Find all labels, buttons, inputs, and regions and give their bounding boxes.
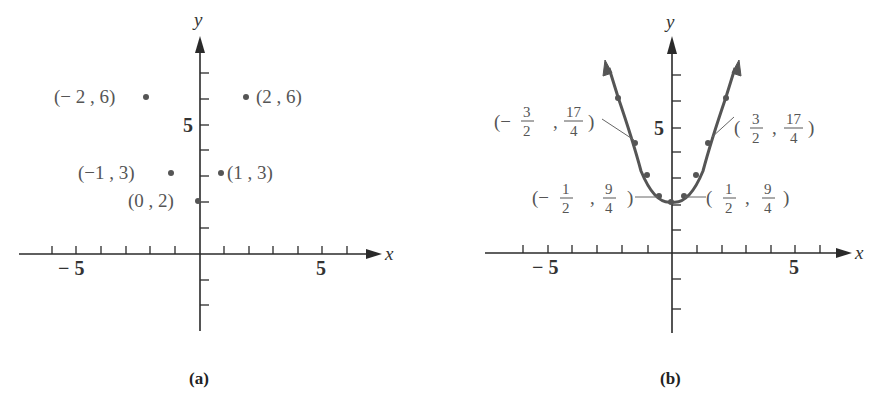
label-neg-three-halves: (− 3 2 , 17 4 ) <box>494 104 594 139</box>
x-axis-label: x <box>854 242 864 263</box>
svg-text:17: 17 <box>566 104 582 120</box>
x-axis-arrow-icon <box>366 249 382 259</box>
point-label: (1 , 3) <box>227 162 273 184</box>
svg-text:,: , <box>590 187 595 208</box>
x-tick-label-5: 5 <box>789 256 799 278</box>
svg-text:(: ( <box>734 117 740 139</box>
svg-text:(: ( <box>706 187 712 209</box>
y-tick-label-5: 5 <box>183 114 193 136</box>
svg-text:): ) <box>627 187 633 209</box>
svg-text:4: 4 <box>790 130 798 146</box>
svg-text:(−: (− <box>532 187 549 209</box>
y-ticks <box>200 73 209 305</box>
svg-text:4: 4 <box>764 200 772 216</box>
x-axis-label: x <box>384 243 394 264</box>
svg-text:,: , <box>745 187 750 208</box>
panel-a: x y <box>19 9 394 388</box>
point-2-6 <box>243 94 249 100</box>
svg-text:9: 9 <box>605 181 613 197</box>
svg-text:(−: (− <box>494 111 511 133</box>
x-tick-label-neg5: − 5 <box>532 256 558 278</box>
svg-text:,: , <box>772 117 777 138</box>
point-1-3 <box>218 170 224 176</box>
svg-text:1: 1 <box>725 181 733 197</box>
point-label: (− 2 , 6) <box>54 86 115 108</box>
svg-text:2: 2 <box>562 200 570 216</box>
figure: x y <box>0 0 881 410</box>
y-axis-label: y <box>664 11 675 32</box>
svg-text:): ) <box>783 187 789 209</box>
svg-text:4: 4 <box>570 123 578 139</box>
caption-a: (a) <box>189 369 209 388</box>
point-neg1-3 <box>168 170 174 176</box>
svg-text:3: 3 <box>523 104 531 120</box>
y-axis-label: y <box>192 9 203 30</box>
y-axis-arrow-icon <box>195 36 205 53</box>
y-tick-label-5: 5 <box>654 117 664 139</box>
svg-text:,: , <box>553 111 558 132</box>
x-tick-label-neg5: − 5 <box>58 257 84 279</box>
svg-text:3: 3 <box>752 111 760 127</box>
label-pos-half: ( 1 2 , 9 4 ) <box>706 181 789 216</box>
curve-arrow-right-icon <box>732 60 741 76</box>
svg-text:2: 2 <box>752 130 760 146</box>
svg-text:): ) <box>808 117 814 139</box>
y-axis-arrow-icon <box>667 36 677 54</box>
data-points <box>143 94 249 204</box>
panel-b: x y − 5 5 <box>485 11 864 388</box>
svg-text:9: 9 <box>764 181 772 197</box>
point-neg2-6 <box>143 94 149 100</box>
svg-text:): ) <box>588 111 594 133</box>
x-tick-label-5: 5 <box>316 257 326 279</box>
y-ticks <box>672 75 681 309</box>
svg-text:2: 2 <box>523 123 531 139</box>
point-label: (2 , 6) <box>256 86 302 108</box>
svg-text:17: 17 <box>786 111 802 127</box>
label-neg-half: (− 1 2 , 9 4 ) <box>532 181 633 216</box>
curve-arrow-left-icon <box>603 60 612 76</box>
svg-text:2: 2 <box>725 200 733 216</box>
point-label: (0 , 2) <box>128 190 174 212</box>
x-axis-arrow-icon <box>836 248 852 258</box>
svg-text:1: 1 <box>562 181 570 197</box>
svg-text:4: 4 <box>605 200 613 216</box>
point-0-2 <box>195 198 201 204</box>
caption-b: (b) <box>660 369 681 388</box>
label-pos-three-halves: ( 3 2 , 17 4 ) <box>734 111 814 146</box>
point-label: (−1 , 3) <box>78 162 135 184</box>
